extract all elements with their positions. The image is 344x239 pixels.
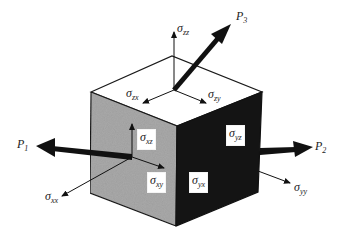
sxz-label: σxz — [137, 129, 156, 150]
sxx-label: σxx — [45, 190, 58, 207]
szx-label: σzx — [126, 87, 139, 104]
szy-label: σzy — [208, 88, 221, 105]
syy-label: σyy — [294, 181, 307, 198]
szz-label: σzz — [177, 22, 189, 39]
syy-arrow — [258, 171, 290, 183]
sxy-label: σxy — [147, 172, 166, 193]
p3-label: P3 — [236, 10, 247, 27]
stress-cube-diagram: P3 P1 P2 σzz σzx σzy σxz σxy σxx σyz σyx… — [0, 0, 344, 239]
p1-arrowhead — [36, 138, 55, 157]
p2-label: P2 — [315, 140, 326, 157]
syz-label: σyz — [226, 125, 245, 146]
syx-label: σyx — [189, 172, 208, 193]
p2-arrow-shaft — [260, 147, 296, 155]
p1-label: P1 — [17, 138, 28, 155]
p2-arrowhead — [293, 141, 313, 157]
